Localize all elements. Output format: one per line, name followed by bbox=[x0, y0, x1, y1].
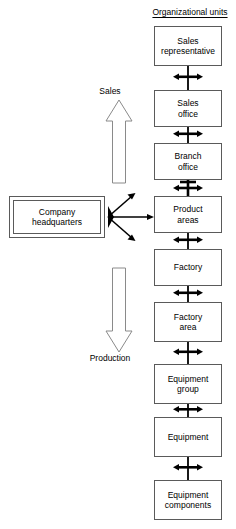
unit-label: Product areas bbox=[172, 204, 203, 225]
unit-label: Branch office bbox=[174, 151, 203, 172]
unit-label-line2: office bbox=[178, 162, 198, 172]
unit-label: Equipment components bbox=[164, 490, 212, 511]
flow-label-production: Production bbox=[74, 353, 146, 363]
unit-box-product-areas[interactable]: Product areas bbox=[154, 196, 222, 233]
connector-sales-representative-to-sales-office bbox=[173, 66, 203, 90]
connector-equipment-to-equipment-components bbox=[173, 457, 203, 480]
hq-label-line2: headquarters bbox=[32, 217, 82, 227]
unit-box-equipment[interactable]: Equipment bbox=[154, 417, 222, 457]
unit-label-line2: area bbox=[179, 322, 196, 332]
unit-label-line1: Equipment bbox=[168, 490, 209, 500]
connector-factory-area-to-equipment-group bbox=[173, 342, 203, 364]
unit-label-line1: Factory bbox=[174, 262, 202, 272]
company-headquarters-label: Company headquarters bbox=[32, 207, 82, 228]
unit-label: Equipment bbox=[167, 432, 210, 443]
unit-label-line2: components bbox=[165, 500, 211, 510]
connector-factory-to-factory-area bbox=[173, 286, 203, 302]
unit-label: Sales representative bbox=[160, 36, 216, 57]
headquarters-connector-fan-icon bbox=[108, 193, 154, 241]
connector-branch-office-to-product-areas bbox=[173, 180, 203, 196]
unit-label-line1: Factory bbox=[174, 312, 202, 322]
unit-label: Factory area bbox=[173, 312, 203, 333]
unit-box-sales-representative[interactable]: Sales representative bbox=[154, 26, 222, 66]
unit-box-sales-office[interactable]: Sales office bbox=[154, 90, 222, 127]
unit-label-line1: Equipment bbox=[168, 432, 209, 442]
unit-label-line2: group bbox=[177, 384, 199, 394]
connector-sales-office-to-branch-office bbox=[173, 127, 203, 143]
unit-box-branch-office[interactable]: Branch office bbox=[154, 143, 222, 180]
company-headquarters-inner: Company headquarters bbox=[13, 200, 101, 234]
unit-box-factory-area[interactable]: Factory area bbox=[154, 302, 222, 342]
company-headquarters-box[interactable]: Company headquarters bbox=[9, 196, 105, 238]
unit-label-line2: areas bbox=[177, 215, 198, 225]
sales-flow-arrow-icon bbox=[106, 100, 132, 183]
unit-box-equipment-group[interactable]: Equipment group bbox=[154, 364, 222, 404]
organizational-units-diagram: Organizational units Sales representativ… bbox=[0, 0, 236, 529]
connector-product-areas-to-factory bbox=[173, 233, 203, 249]
unit-label-line2: office bbox=[178, 109, 198, 119]
flow-label-sales: Sales bbox=[78, 86, 142, 96]
unit-label-line1: Sales bbox=[177, 36, 198, 46]
connector-equipment-group-to-equipment bbox=[173, 404, 203, 417]
unit-label: Factory bbox=[173, 262, 203, 273]
unit-box-equipment-components[interactable]: Equipment components bbox=[154, 480, 222, 520]
unit-label: Equipment group bbox=[167, 374, 210, 395]
unit-label-line2: representative bbox=[161, 46, 215, 56]
column-title-organizational-units: Organizational units bbox=[148, 7, 232, 18]
unit-label-line1: Sales bbox=[177, 98, 198, 108]
production-flow-arrow-icon bbox=[106, 268, 132, 352]
hq-label-line1: Company bbox=[39, 207, 75, 217]
unit-box-factory[interactable]: Factory bbox=[154, 249, 222, 286]
unit-label-line1: Branch bbox=[175, 151, 202, 161]
unit-label-line1: Equipment bbox=[168, 374, 209, 384]
unit-label-line1: Product bbox=[173, 204, 202, 214]
unit-label: Sales office bbox=[176, 98, 199, 119]
